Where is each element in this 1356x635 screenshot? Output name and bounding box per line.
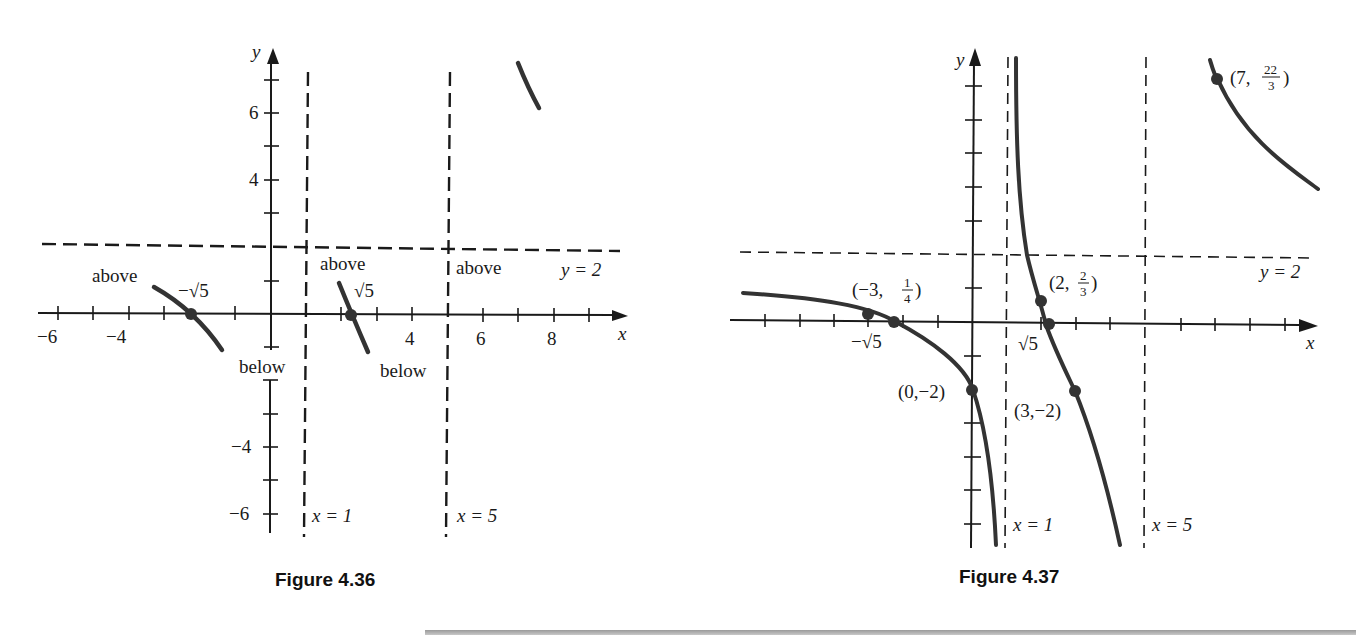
asymptote-x5 [1144, 57, 1146, 548]
point-0-neg2 [966, 384, 978, 396]
zero-point-sqrt5 [345, 309, 357, 321]
figure-4-36 [38, 48, 628, 537]
x-axis-arrow-icon [1299, 319, 1318, 332]
sign-label-below: below [380, 360, 427, 381]
svg-text:): ) [915, 279, 921, 301]
curve-right-branch [518, 63, 539, 108]
tick-label-y: 4 [249, 169, 259, 190]
point-sqrt5 [1043, 318, 1055, 330]
zero-label-sqrt5: √5 [354, 280, 374, 301]
asymptote-x5 [446, 72, 450, 537]
asymptote-label-x5: x = 5 [1151, 514, 1192, 535]
sign-label-below: below [239, 356, 286, 377]
sign-label-above: above [320, 253, 365, 274]
svg-text:(2,: (2, [1049, 272, 1070, 294]
tick-label-x: −6 [37, 326, 57, 347]
point-neg-sqrt5 [888, 316, 900, 328]
figure-4-37 [730, 48, 1318, 548]
point-2-two-thirds [1035, 295, 1047, 307]
page-edge-shadow [425, 630, 1356, 635]
tick-label-x: 4 [405, 328, 415, 349]
asymptote-x1 [1005, 57, 1008, 548]
x-axis [38, 313, 615, 315]
y-axis-arrow-icon [267, 48, 279, 64]
sign-label-above: above [456, 257, 501, 278]
asymptote-label-y2: y = 2 [559, 259, 602, 280]
point-label-neg3-quarter: (−3, 1 4 ) [852, 275, 921, 306]
tick-label-x: 6 [476, 328, 486, 349]
y-axis-label: y [250, 41, 261, 62]
tick-label-y: 6 [249, 102, 259, 123]
point-label-0-neg2: (0,−2) [898, 381, 945, 403]
point-3-neg2 [1069, 385, 1081, 397]
svg-text:): ) [1283, 67, 1289, 89]
tick-label-y: −6 [229, 503, 249, 524]
svg-text:3: 3 [1080, 284, 1087, 299]
point-label-2-two-thirds: (2, 2 3 ) [1049, 268, 1097, 299]
svg-text:3: 3 [1268, 78, 1275, 93]
asymptote-label-y2: y = 2 [1258, 261, 1301, 282]
tick-label-x: −4 [106, 326, 127, 347]
svg-text:1: 1 [904, 275, 911, 290]
tick-label-x: 8 [547, 328, 557, 349]
svg-text:4: 4 [904, 291, 911, 306]
asymptote-label-x5: x = 5 [456, 505, 497, 526]
y-axis [971, 60, 974, 548]
y-axis-label: y [954, 49, 965, 70]
asymptote-label-x1: x = 1 [1012, 514, 1053, 535]
figure-caption: Figure 4.36 [275, 569, 375, 590]
y-axis-arrow-icon [969, 48, 981, 66]
point-label-3-neg2: (3,−2) [1014, 400, 1061, 422]
asymptote-label-x1: x = 1 [311, 505, 352, 526]
asymptote-y2 [42, 244, 620, 251]
figure-caption: Figure 4.37 [959, 566, 1059, 587]
x-axis-arrow-icon [612, 310, 628, 321]
zero-point-neg-sqrt5 [185, 308, 197, 320]
svg-text:2: 2 [1080, 268, 1087, 283]
svg-text:): ) [1091, 272, 1097, 294]
zero-label-neg-sqrt5: −√5 [178, 280, 209, 301]
sign-label-above: above [92, 265, 137, 286]
asymptote-x1 [304, 72, 308, 537]
x-axis-label: x [1305, 332, 1315, 353]
svg-text:(7,: (7, [1230, 67, 1251, 89]
data-points [862, 73, 1223, 397]
x-axis-label: x [617, 323, 627, 344]
figure-4-37-labels: y x (−3, 1 4 ) (2, 2 3 ) (7, 22 3 ) (0,−… [851, 49, 1315, 587]
curve-branch-middle [1016, 58, 1120, 545]
tick-label-y: −4 [231, 436, 252, 457]
curve-branch-right [1210, 60, 1318, 189]
figures-canvas: y x −6 −4 4 6 8 6 4 −4 −6 −√5 √5 above b… [0, 0, 1356, 635]
zero-label-sqrt5: √5 [1018, 333, 1038, 354]
point-neg3-quarter [862, 308, 874, 320]
svg-text:22: 22 [1264, 62, 1277, 77]
point-label-7-22-thirds: (7, 22 3 ) [1230, 62, 1289, 93]
svg-text:(−3,: (−3, [852, 279, 883, 301]
zero-label-neg-sqrt5: −√5 [851, 331, 882, 352]
point-7-22-thirds [1211, 73, 1223, 85]
